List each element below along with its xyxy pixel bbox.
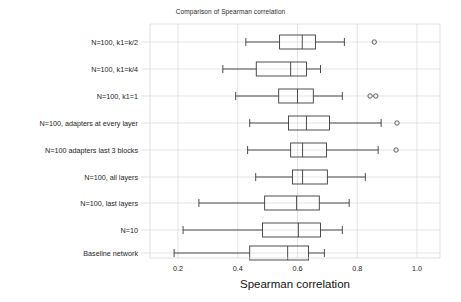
x-tick-label: 0.2 xyxy=(173,264,183,273)
plot-canvas: N=100, k1=k/2N=100, k1=k/4N=100, k1=1N=1… xyxy=(0,0,461,302)
y-tick-label: N=100, last layers xyxy=(80,199,138,208)
x-tick-label: 0.4 xyxy=(233,264,243,273)
y-tick-label: N=100, all layers xyxy=(84,173,138,182)
y-tick-label: Baseline network xyxy=(83,249,138,258)
x-axis-label: Spearman correlation xyxy=(150,278,440,290)
x-axis-tick-labels: 0.20.40.60.81.0 xyxy=(173,264,422,273)
y-tick-label: N=100, k1=k/2 xyxy=(91,38,138,47)
y-tick-label: N=100 adapters last 3 blocks xyxy=(45,146,138,155)
x-tick-label: 1.0 xyxy=(412,264,422,273)
x-tick-label: 0.6 xyxy=(293,264,303,273)
y-tick-label: N=100, k1=k/4 xyxy=(91,65,138,74)
y-tick-label: N=100, adapters at every layer xyxy=(40,119,139,128)
y-tick-label: N=10 xyxy=(121,226,138,235)
boxplot-chart: Comparison of Spearman correlation N=100… xyxy=(0,0,461,302)
x-tick-label: 0.8 xyxy=(352,264,362,273)
y-axis-tick-labels: N=100, k1=k/2N=100, k1=k/4N=100, k1=1N=1… xyxy=(40,38,150,258)
chart-title: Comparison of Spearman correlation xyxy=(0,8,461,15)
y-tick-label: N=100, k1=1 xyxy=(97,92,138,101)
